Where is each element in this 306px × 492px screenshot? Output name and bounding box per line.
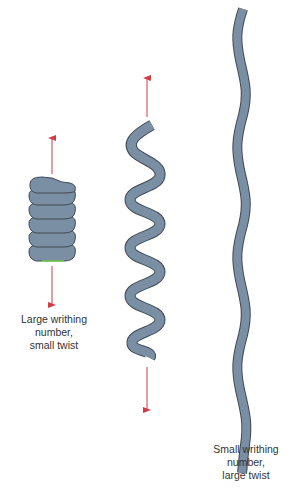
straight-label-line-2: number,: [196, 456, 296, 469]
straight-label-line-1: Small writhing: [196, 443, 296, 456]
coiled-label: Large writhing number, small twist: [4, 313, 104, 352]
coiled-label-line-2: number,: [4, 326, 104, 339]
supercoil-diagram: [0, 0, 306, 492]
coiled-figure: [29, 138, 76, 305]
coiled-label-line-1: Large writhing: [4, 313, 104, 326]
straight-figure: [237, 9, 246, 473]
coiled-label-line-3: small twist: [4, 339, 104, 352]
straight-label: Small writhing number, large twist: [196, 443, 296, 482]
straight-label-line-3: large twist: [196, 469, 296, 482]
coil-loops: [29, 177, 76, 261]
helix-figure: [130, 78, 160, 410]
